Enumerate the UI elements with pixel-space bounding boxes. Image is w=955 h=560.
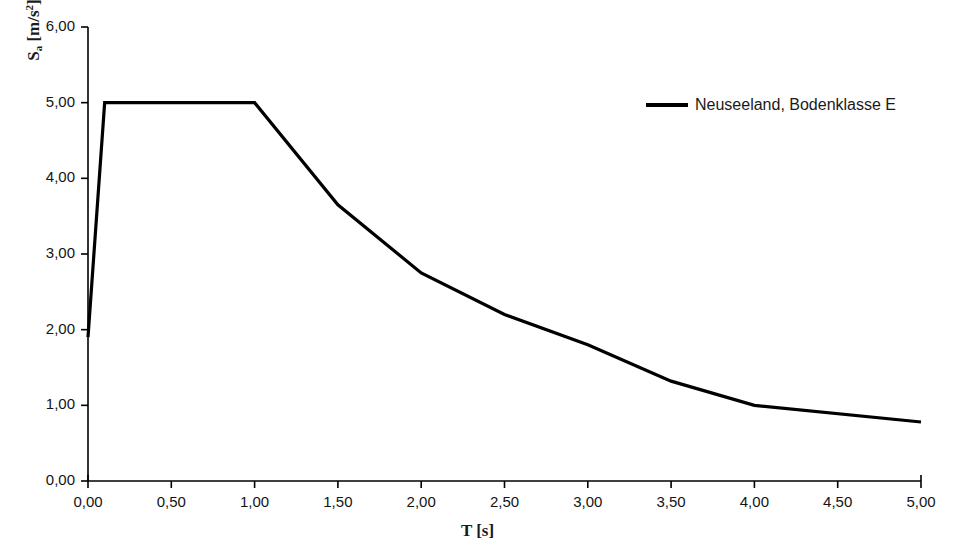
y-tick-label: 6,00	[23, 17, 75, 34]
x-tick-label: 5,00	[891, 493, 951, 510]
x-tick-label: 2,00	[391, 493, 451, 510]
x-tick-label: 0,50	[141, 493, 201, 510]
plot-area	[0, 0, 955, 560]
y-tick-label: 1,00	[23, 395, 75, 412]
y-tick-label: 3,00	[23, 244, 75, 261]
x-tick-label: 3,50	[641, 493, 701, 510]
y-tick-label: 4,00	[23, 168, 75, 185]
x-tick-label: 2,50	[475, 493, 535, 510]
y-tick-label: 0,00	[23, 471, 75, 488]
data-series	[88, 103, 921, 422]
series-line	[88, 103, 921, 422]
axis-lines	[88, 27, 921, 481]
x-tick-label: 4,00	[724, 493, 784, 510]
y-tick-label: 2,00	[23, 320, 75, 337]
x-tick-label: 1,50	[308, 493, 368, 510]
axis-ticks	[81, 27, 921, 488]
x-tick-label: 3,00	[558, 493, 618, 510]
x-tick-label: 1,00	[225, 493, 285, 510]
y-tick-label: 5,00	[23, 93, 75, 110]
spectrum-chart: Sa [m/s2] T [s] Neuseeland, Bodenklasse …	[0, 0, 955, 560]
x-tick-label: 0,00	[58, 493, 118, 510]
x-tick-label: 4,50	[808, 493, 868, 510]
